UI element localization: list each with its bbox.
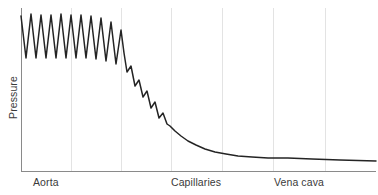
pressure-curve-line [21,14,376,161]
pressure-chart-figure: Pressure Aorta Capillaries Vena cava [0,0,378,195]
chart-canvas [0,0,378,195]
x-tick-label-capillaries: Capillaries [171,176,221,188]
x-tick-label-vena-cava: Vena cava [274,176,324,188]
x-tick-label-aorta: Aorta [33,176,59,188]
